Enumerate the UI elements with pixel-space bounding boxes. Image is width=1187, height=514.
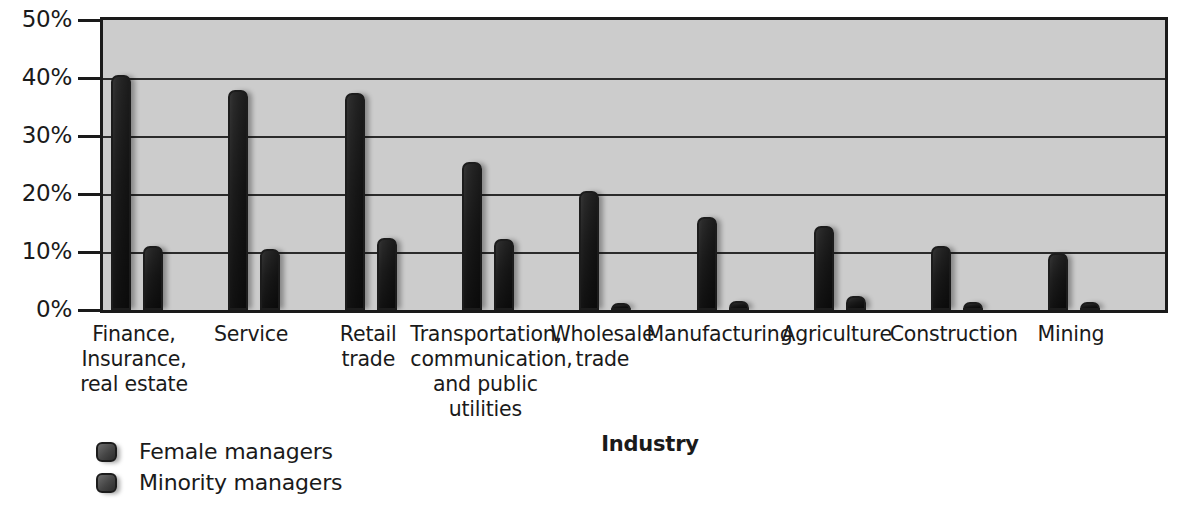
- bar-group: [579, 20, 696, 310]
- y-tick-label: 30%: [0, 124, 72, 147]
- legend-item-female[interactable]: Female managers: [96, 436, 342, 467]
- bar-minority-managers: [963, 302, 983, 310]
- x-axis-title: Industry: [520, 432, 780, 456]
- bar-minority-managers: [260, 249, 280, 310]
- bar-group: [228, 20, 345, 310]
- bar-group: [814, 20, 931, 310]
- y-tick-mark: [78, 251, 100, 254]
- y-tick-mark: [78, 77, 100, 80]
- y-tick-label: 40%: [0, 66, 72, 89]
- bar-female-managers: [579, 191, 599, 310]
- bar-group: [931, 20, 1048, 310]
- bars-layer: [103, 20, 1165, 310]
- bar-group: [1048, 20, 1165, 310]
- bar-female-managers: [1048, 253, 1068, 310]
- y-tick-label: 0%: [0, 298, 72, 321]
- bar-minority-managers: [729, 301, 749, 310]
- legend-swatch-female-icon: [96, 442, 117, 462]
- bar-group: [345, 20, 462, 310]
- y-tick-mark: [78, 19, 100, 22]
- chart-legend: Female managers Minority managers: [96, 436, 342, 498]
- y-tick-label: 50%: [0, 8, 72, 31]
- y-tick-label: 20%: [0, 182, 72, 205]
- bar-group: [697, 20, 814, 310]
- bar-female-managers: [111, 75, 131, 310]
- bar-female-managers: [931, 246, 951, 310]
- legend-swatch-minority-icon: [96, 473, 117, 493]
- bar-minority-managers: [143, 246, 163, 310]
- bar-group: [111, 20, 228, 310]
- bar-female-managers: [228, 90, 248, 310]
- x-category-label: Mining: [996, 322, 1146, 347]
- bar-minority-managers: [494, 239, 514, 310]
- bar-chart: 50%40%30%20%10%0% Finance, Insurance, re…: [0, 0, 1187, 514]
- legend-item-minority[interactable]: Minority managers: [96, 467, 342, 498]
- bar-female-managers: [697, 217, 717, 310]
- y-tick-label: 10%: [0, 240, 72, 263]
- y-axis: 50%40%30%20%10%0%: [0, 0, 72, 330]
- bar-minority-managers: [377, 238, 397, 311]
- y-tick-mark: [78, 135, 100, 138]
- bar-minority-managers: [1080, 302, 1100, 310]
- bar-minority-managers: [846, 296, 866, 311]
- y-tick-mark: [78, 193, 100, 196]
- bar-female-managers: [345, 93, 365, 311]
- bar-group: [462, 20, 579, 310]
- bar-female-managers: [462, 162, 482, 310]
- legend-label-minority: Minority managers: [139, 472, 342, 494]
- bar-minority-managers: [611, 303, 631, 310]
- bar-female-managers: [814, 226, 834, 310]
- x-axis-category-labels: Finance, Insurance, real estateServiceRe…: [100, 322, 1168, 432]
- plot-area: [100, 17, 1168, 313]
- y-tick-mark: [78, 309, 100, 312]
- legend-label-female: Female managers: [139, 441, 333, 463]
